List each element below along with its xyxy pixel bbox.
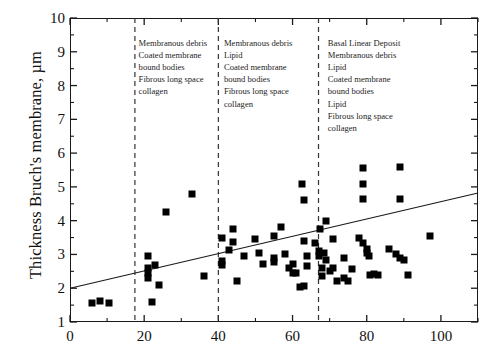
annotation-line: collagen	[328, 122, 401, 134]
data-point	[360, 180, 367, 187]
data-point	[152, 262, 159, 269]
data-point	[230, 226, 237, 233]
annotation-line: bound bodies	[328, 85, 401, 97]
x-tick-label: 60	[285, 329, 300, 344]
annotation-line: bound bodies	[224, 73, 293, 85]
y-axis-title: Thickness Bruch's membrane, µm	[23, 10, 49, 320]
data-point	[230, 238, 237, 245]
data-point	[96, 298, 103, 305]
y-axis-title-text: Thickness Bruch's membrane, µm	[26, 51, 46, 279]
y-tick-label: 5	[58, 179, 66, 194]
data-point	[400, 256, 407, 263]
data-point	[259, 260, 266, 267]
data-point	[233, 278, 240, 285]
data-point	[252, 236, 259, 243]
data-point	[300, 197, 307, 204]
data-point	[360, 195, 367, 202]
data-point	[105, 299, 112, 306]
data-point	[330, 236, 337, 243]
x-tick-label: 80	[359, 329, 374, 344]
data-point	[298, 180, 305, 187]
annotation-line: bound bodies	[139, 61, 208, 73]
annotation-line: Coated membrane	[139, 49, 208, 61]
y-tick-label: 6	[58, 146, 66, 161]
data-point	[385, 246, 392, 253]
data-point	[341, 254, 348, 261]
annotation-line: Fibrous long space	[328, 110, 401, 122]
annotation-line: Membranous debris	[224, 37, 293, 49]
x-tick-label: 20	[137, 329, 152, 344]
data-point	[278, 224, 285, 231]
data-point	[322, 217, 329, 224]
data-point	[397, 195, 404, 202]
annotation-line: Lipid	[328, 98, 401, 110]
data-point	[300, 237, 307, 244]
y-tick-label: 8	[58, 78, 66, 93]
data-point	[144, 275, 151, 282]
data-point	[334, 278, 341, 285]
annotation-line: collagen	[139, 85, 208, 97]
y-tick-label: 10	[50, 11, 65, 26]
annotation-line: Basal Linear Deposit	[328, 37, 401, 49]
data-point	[148, 298, 155, 305]
annotation-line: Fibrous long space	[224, 85, 293, 97]
data-point	[89, 300, 96, 307]
annotation-line: Lipid	[224, 49, 293, 61]
data-point	[330, 264, 337, 271]
x-tick-label: 100	[430, 329, 453, 344]
y-tick-label: 4	[58, 213, 66, 228]
annotation-line: Membranous debris	[328, 49, 401, 61]
data-point	[289, 260, 296, 267]
annotation-line: Lipid	[328, 61, 401, 73]
annotation-zone-3: Basal Linear DepositMembranous debrisLip…	[328, 37, 401, 135]
data-point	[219, 262, 226, 269]
data-point	[163, 209, 170, 216]
data-point	[219, 234, 226, 241]
annotation-zone-2: Membranous debrisLipidCoated membranebou…	[224, 37, 293, 110]
data-point	[317, 226, 324, 233]
data-point	[256, 249, 263, 256]
plot-area: 12345678910 020406080100 Membranous debr…	[70, 18, 478, 322]
data-point	[304, 253, 311, 260]
data-point	[345, 278, 352, 285]
y-tick-label: 7	[58, 112, 66, 127]
data-point	[300, 282, 307, 289]
data-point	[271, 232, 278, 239]
y-tick-label: 3	[58, 247, 66, 262]
data-point	[319, 264, 326, 271]
annotation-zone-1: Membranous debrisCoated membranebound bo…	[139, 37, 208, 98]
annotation-line: Coated membrane	[328, 73, 401, 85]
data-point	[200, 273, 207, 280]
data-point	[189, 190, 196, 197]
data-point	[271, 258, 278, 265]
data-point	[426, 232, 433, 239]
y-tick-label: 1	[58, 315, 66, 330]
data-point	[360, 165, 367, 172]
x-tick-label: 40	[211, 329, 226, 344]
y-tick-label: 2	[58, 281, 66, 296]
annotation-line: collagen	[224, 98, 293, 110]
data-point	[226, 247, 233, 254]
chart-figure: Thickness Bruch's membrane, µm 123456789…	[0, 0, 497, 364]
data-point	[156, 281, 163, 288]
data-point	[322, 256, 329, 263]
data-point	[319, 273, 326, 280]
data-point	[304, 263, 311, 270]
x-tick-label: 0	[66, 329, 74, 344]
data-point	[144, 253, 151, 260]
data-point	[365, 253, 372, 260]
data-point	[311, 239, 318, 246]
annotation-line: Membranous debris	[139, 37, 208, 49]
data-point	[282, 251, 289, 258]
data-point	[348, 265, 355, 272]
regression-line	[70, 193, 478, 288]
annotation-line: Fibrous long space	[139, 73, 208, 85]
annotation-line: Coated membrane	[224, 61, 293, 73]
data-point	[293, 270, 300, 277]
y-tick-label: 9	[58, 44, 66, 59]
data-point	[374, 271, 381, 278]
data-point	[397, 163, 404, 170]
data-point	[404, 271, 411, 278]
data-point	[241, 253, 248, 260]
